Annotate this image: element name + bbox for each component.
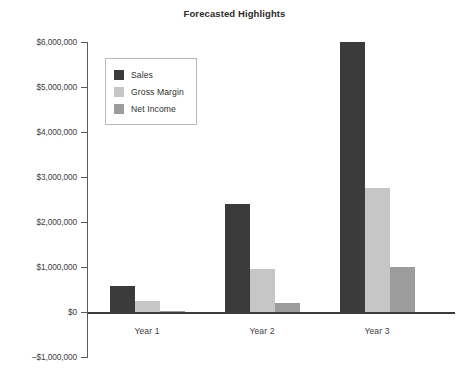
y-axis-tick-label: $1,000,000 (36, 262, 77, 272)
y-axis-tick-label: $2,000,000 (36, 217, 77, 227)
x-axis-label: Year 3 (332, 326, 422, 336)
y-axis-spine (87, 42, 88, 358)
chart-title: Forecasted Highlights (0, 8, 469, 19)
legend-item[interactable]: Sales (114, 66, 184, 83)
bar-net-income[interactable] (390, 267, 415, 312)
x-axis-label: Year 2 (217, 326, 307, 336)
bar-chart: Forecasted Highlights $6,000,000$5,000,0… (0, 0, 469, 378)
legend-label: Net Income (131, 104, 176, 114)
x-axis-zero-line (87, 312, 455, 314)
legend-label: Sales (131, 70, 153, 80)
x-axis-label: Year 1 (102, 326, 192, 336)
legend-item[interactable]: Net Income (114, 100, 184, 117)
y-axis-tick-label: $3,000,000 (36, 172, 77, 182)
chart-legend: SalesGross MarginNet Income (105, 58, 197, 125)
y-axis-tick-label: $0 (68, 307, 77, 317)
y-axis-tick-label: $6,000,000 (36, 37, 77, 47)
y-axis-tick (81, 87, 88, 88)
legend-swatch-icon (114, 104, 124, 114)
y-axis-tick (81, 267, 88, 268)
bar-gross-margin[interactable] (250, 269, 275, 312)
y-axis-tick-label: $4,000,000 (36, 127, 77, 137)
y-axis-tick (81, 132, 88, 133)
y-axis-tick (81, 312, 88, 313)
y-axis-tick (81, 177, 88, 178)
legend-label: Gross Margin (131, 87, 184, 97)
legend-swatch-icon (114, 70, 124, 80)
bar-net-income[interactable] (275, 303, 300, 312)
y-axis-tick (81, 357, 88, 358)
y-axis-tick-label: $5,000,000 (36, 82, 77, 92)
bar-net-income[interactable] (160, 311, 185, 313)
bar-sales[interactable] (110, 286, 135, 312)
legend-item[interactable]: Gross Margin (114, 83, 184, 100)
bar-gross-margin[interactable] (135, 301, 160, 312)
y-axis-tick-label: –$1,000,000 (32, 352, 77, 362)
y-axis-tick (81, 222, 88, 223)
bar-sales[interactable] (340, 42, 365, 312)
bar-gross-margin[interactable] (365, 188, 390, 312)
legend-swatch-icon (114, 87, 124, 97)
y-axis-tick (81, 42, 88, 43)
bar-sales[interactable] (225, 204, 250, 312)
